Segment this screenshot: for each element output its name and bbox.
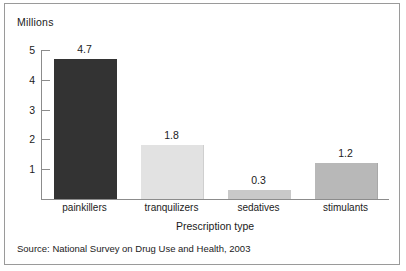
x-axis-label-sedatives: sedatives xyxy=(215,203,302,213)
y-axis-tick-label: 3 xyxy=(9,104,35,115)
bar-value-label-sedatives: 0.3 xyxy=(229,175,289,186)
bar-sedatives[interactable] xyxy=(228,190,291,199)
y-axis-line xyxy=(41,51,42,200)
bar-stimulants[interactable] xyxy=(315,163,378,199)
y-axis-tick-label: 1 xyxy=(9,164,35,175)
y-axis-tick-label: 2 xyxy=(9,134,35,145)
x-axis-label-painkillers: painkillers xyxy=(41,203,128,213)
y-axis-tick xyxy=(41,169,50,170)
y-axis-tick xyxy=(41,139,50,140)
bar-tranquilizers[interactable] xyxy=(141,145,204,199)
x-axis-title: Prescription type xyxy=(41,220,389,232)
y-axis-tick-label: 4 xyxy=(9,75,35,86)
plot-area: 12345 4.71.80.31.2 painkillerstranquiliz… xyxy=(5,4,401,266)
bar-value-label-tranquilizers: 1.8 xyxy=(142,130,202,141)
x-axis-label-stimulants: stimulants xyxy=(302,203,389,213)
source-note: Source: National Survey on Drug Use and … xyxy=(17,243,250,254)
bar-value-label-stimulants: 1.2 xyxy=(316,148,376,159)
x-axis-line xyxy=(41,199,389,200)
x-axis-label-tranquilizers: tranquilizers xyxy=(128,203,215,213)
y-axis-tick xyxy=(41,110,50,111)
chart-frame: Millions 12345 4.71.80.31.2 painkillerst… xyxy=(4,3,400,265)
bar-painkillers[interactable] xyxy=(54,59,117,199)
y-axis-tick xyxy=(41,50,50,51)
y-axis-tick xyxy=(41,80,50,81)
y-axis-tick-label: 5 xyxy=(9,45,35,56)
bar-value-label-painkillers: 4.7 xyxy=(55,44,115,55)
